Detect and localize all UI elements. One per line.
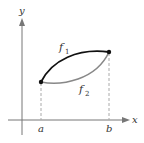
tick-label-a: a	[38, 123, 44, 134]
svg-text:2: 2	[85, 90, 89, 98]
y-axis-arrow-icon	[19, 18, 25, 26]
y-axis-label: y	[18, 5, 25, 16]
area-between-curves-diagram: x y f 1 f 2 a b	[0, 0, 144, 143]
point-a	[39, 80, 43, 84]
label-f1: f 1	[58, 41, 69, 56]
svg-text:f: f	[58, 41, 65, 54]
label-f2: f 2	[78, 83, 89, 98]
svg-text:1: 1	[65, 48, 69, 56]
x-axis-label: x	[132, 114, 138, 125]
point-b	[107, 50, 111, 54]
x-axis-arrow-icon	[122, 117, 130, 123]
svg-text:f: f	[78, 83, 85, 96]
tick-label-b: b	[106, 123, 112, 134]
y-axis: y	[18, 5, 25, 135]
x-axis: x	[8, 114, 138, 125]
